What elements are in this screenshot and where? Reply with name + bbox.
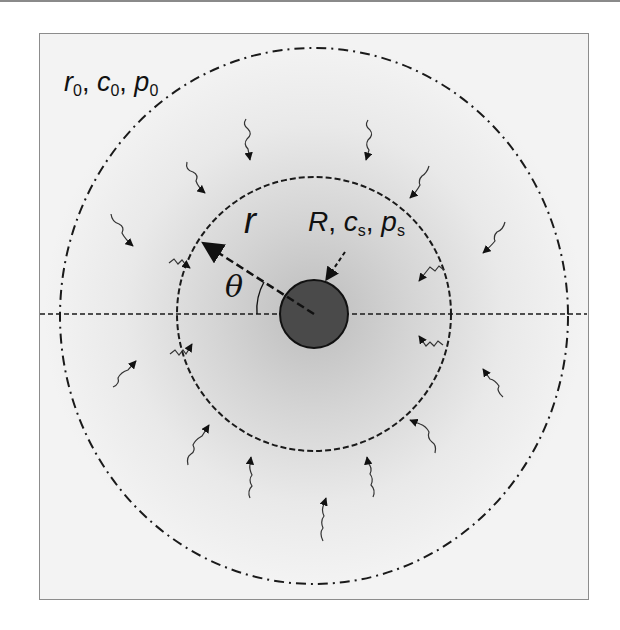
label-R: R	[308, 206, 328, 237]
label-c0: c	[97, 67, 111, 97]
label-p0-subscript: 0	[149, 82, 158, 99]
label-ps-subscript: s	[397, 222, 405, 239]
angle-label: θ	[225, 269, 243, 304]
label-ps: p	[381, 206, 397, 237]
label-cs: c	[344, 206, 358, 237]
label-p0: p	[134, 67, 149, 97]
surface-label: R, cs, ps	[308, 206, 405, 240]
radius-label: r	[244, 200, 256, 242]
label-cs-subscript: s	[358, 222, 366, 239]
outer-boundary-label: r0, c0, p0	[64, 67, 158, 100]
label-r0-subscript: 0	[73, 82, 82, 99]
label-c0-subscript: 0	[110, 82, 119, 99]
label-r0: r	[64, 67, 73, 97]
